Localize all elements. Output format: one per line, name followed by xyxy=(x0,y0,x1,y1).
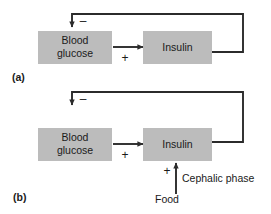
panel-b-blood-glucose-label-line2: glucose xyxy=(57,144,93,156)
figure-container: Blood glucose Insulin – + (a) Blood gluc… xyxy=(0,0,271,214)
panel-b-blood-glucose-label-line1: Blood xyxy=(62,131,89,143)
panel-a-plus-sign: + xyxy=(121,51,128,65)
panel-b-plus-sign-cephalic: + xyxy=(163,164,170,178)
panel-b-label: (b) xyxy=(13,191,26,203)
panel-b-minus-sign: – xyxy=(80,92,87,106)
panel-b-food-label: Food xyxy=(155,193,179,205)
feedback-loop-diagram: Blood glucose Insulin – + (a) Blood gluc… xyxy=(0,0,271,214)
panel-a-blood-glucose-label-line2: glucose xyxy=(57,47,93,59)
panel-b: Blood glucose Insulin – + + Cephalic pha… xyxy=(13,92,255,205)
panel-a: Blood glucose Insulin – + (a) xyxy=(12,14,243,83)
panel-b-insulin-label: Insulin xyxy=(162,138,193,150)
panel-a-blood-glucose-label-line1: Blood xyxy=(62,34,89,46)
panel-b-cephalic-phase-label: Cephalic phase xyxy=(182,172,255,184)
panel-b-plus-sign-glucose: + xyxy=(121,148,128,162)
panel-a-minus-sign: – xyxy=(80,14,87,28)
panel-a-label: (a) xyxy=(12,71,25,83)
panel-a-insulin-label: Insulin xyxy=(162,41,193,53)
